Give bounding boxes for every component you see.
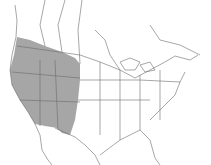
range-map — [0, 0, 211, 165]
north-america-map — [0, 0, 211, 165]
range-area — [10, 37, 80, 135]
